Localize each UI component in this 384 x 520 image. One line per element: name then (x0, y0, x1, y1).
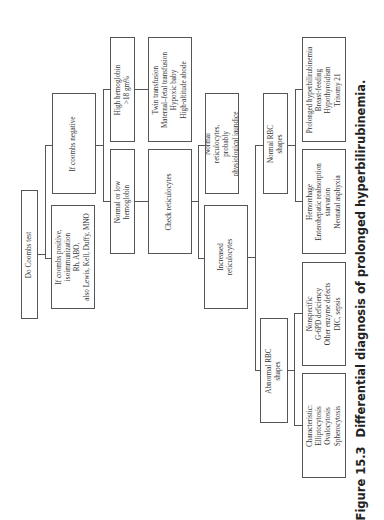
figure-number: Figure 15.3 (354, 446, 368, 520)
connector (45, 145, 46, 258)
connector (103, 89, 110, 90)
figure-caption: Figure 15.3Differential diagnosis of pro… (354, 80, 368, 520)
node-coombs-negative: If coombs negative (52, 93, 96, 194)
node-coombs-test-text: Do Coombs test (25, 231, 34, 277)
node-characteristic: Characteristic: Elliptocytosis Ovalocyto… (302, 373, 346, 478)
connector (45, 145, 52, 146)
connector (198, 258, 204, 259)
node-check-reticulocytes-text: Check reticulocytes (165, 173, 174, 230)
node-coombs-test: Do Coombs test (21, 190, 38, 319)
connector (295, 89, 302, 90)
node-increased-reticulocytes-text: Increased reticulocytes (217, 239, 235, 276)
connector (294, 313, 302, 314)
node-prolonged: Prolonged hyperbilirubinemia Breast-feed… (302, 37, 346, 142)
node-nonspecific-text: Nonspecific G-6PD deficiency Other enzym… (306, 283, 343, 346)
node-check-reticulocytes: Check reticulocytes (148, 149, 192, 254)
connector (37, 254, 45, 255)
figure-title: Differential diagnosis of prolonged hype… (354, 80, 368, 438)
node-normal-rbc-text: Normal RBC shapes (266, 124, 284, 162)
connector (96, 145, 103, 146)
node-hemorrhage-text: Hemorrhage Enterohepatic reabsorption st… (306, 163, 343, 241)
connector (135, 201, 148, 202)
node-coombs-positive-text: If coombs positive, isoimmunization Rh, … (55, 213, 92, 300)
node-abnormal-rbc: Abnormal RBC shapes (260, 318, 288, 423)
connector (295, 201, 302, 202)
node-prolonged-text: Prolonged hyperbilirubinemia Breast-feed… (306, 46, 343, 132)
node-high-hb-causes: Twin transfusion Maternal–fetal transfus… (148, 37, 192, 142)
node-high-hemoglobin: High hemoglobin >18 gm% (110, 37, 135, 142)
node-high-hemoglobin-text: High hemoglobin >18 gm% (113, 64, 131, 115)
node-normal-reticulocytes-text: Normal reticulocytes, probably physiolog… (205, 111, 239, 176)
connector (198, 145, 205, 146)
connector (45, 258, 51, 259)
connector (255, 145, 256, 371)
node-characteristic-text: Characteristic: Elliptocytosis Ovalocyto… (306, 405, 343, 447)
node-coombs-positive: If coombs positive, isoimmunization Rh, … (51, 205, 95, 309)
node-normal-low-hemoglobin: Normal or low hemoglobin (110, 149, 135, 254)
connector (135, 89, 148, 90)
node-normal-reticulocytes: Normal reticulocytes, probably physiolog… (205, 93, 239, 194)
node-hemorrhage: Hemorrhage Enterohepatic reabsorption st… (302, 149, 346, 254)
node-increased-reticulocytes: Increased reticulocytes (204, 205, 248, 309)
node-normal-rbc: Normal RBC shapes (263, 93, 288, 194)
connector (295, 89, 296, 202)
connector (248, 257, 255, 258)
connector (288, 145, 295, 146)
node-normal-low-hemoglobin-text: Normal or low hemoglobin (113, 180, 131, 222)
connector (103, 201, 110, 202)
node-abnormal-rbc-text: Abnormal RBC shapes (265, 348, 283, 393)
connector (294, 313, 295, 426)
node-coombs-negative-text: If coombs negative (69, 116, 78, 171)
connector (294, 425, 302, 426)
connector (255, 370, 260, 371)
connector (255, 145, 263, 146)
node-high-hb-causes-text: Twin transfusion Maternal–fetal transfus… (152, 51, 189, 127)
connector (103, 89, 104, 202)
node-nonspecific: Nonspecific G-6PD deficiency Other enzym… (302, 262, 346, 366)
connector (198, 145, 199, 258)
